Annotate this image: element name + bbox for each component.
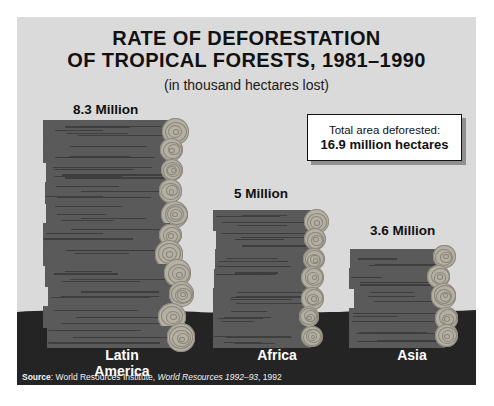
log <box>43 120 174 142</box>
chart-subtitle: (in thousand hectares lost) <box>17 77 476 93</box>
log <box>45 264 176 286</box>
category-label-africa: Africa <box>222 347 332 363</box>
source-year: , 1992 <box>258 372 282 382</box>
value-label-asia: 3.6 Million <box>370 223 435 238</box>
log <box>48 285 181 307</box>
log-end-disc <box>299 306 320 327</box>
log-stack-latin-america <box>43 120 187 347</box>
log <box>43 223 170 245</box>
source-prefix: Source <box>22 372 51 382</box>
chart-panel: RATE OF DEFORESTATION OF TROPICAL FOREST… <box>17 17 476 385</box>
log <box>45 182 169 204</box>
log-end-disc <box>435 324 458 347</box>
log-stack-africa <box>213 210 328 347</box>
log <box>43 244 167 266</box>
source-line: Source: World Resources Institute, World… <box>22 372 282 382</box>
log <box>213 210 315 231</box>
chart-title-line-2: OF TROPICAL FORESTS, 1981–1990 <box>17 50 476 71</box>
log-end-disc <box>304 228 326 250</box>
log-end-disc <box>301 266 324 289</box>
infographic-chart: RATE OF DEFORESTATION OF TROPICAL FOREST… <box>0 0 494 406</box>
log-end-disc <box>159 179 182 202</box>
log <box>214 269 311 290</box>
log <box>349 327 445 348</box>
log <box>46 203 173 225</box>
log <box>216 230 315 251</box>
value-label-africa: 5 Million <box>234 186 288 201</box>
log <box>43 306 171 328</box>
category-label-asia: Asia <box>357 347 467 363</box>
log <box>47 326 180 348</box>
log <box>43 141 171 163</box>
log <box>349 268 437 289</box>
log <box>46 161 171 183</box>
log-end-disc <box>301 326 323 348</box>
log <box>215 249 312 270</box>
source-publisher: World Resources Institute, <box>56 372 158 382</box>
callout-value: 16.9 million hectares <box>321 137 449 153</box>
total-deforested-callout: Total area deforested: 16.9 million hect… <box>307 114 462 161</box>
source-work-title: World Resources 1992–93 <box>157 372 258 382</box>
log-end-disc <box>431 283 457 309</box>
category-label-line-1: Latin <box>57 347 187 363</box>
log <box>213 327 311 348</box>
log <box>354 288 442 309</box>
chart-title-line-1: RATE OF DEFORESTATION <box>17 28 476 49</box>
value-label-latin-america: 8.3 Million <box>73 102 138 117</box>
callout-label: Total area deforested: <box>329 123 440 137</box>
log <box>349 308 445 329</box>
log-end-disc <box>161 159 183 181</box>
log <box>350 249 443 270</box>
log <box>213 308 308 329</box>
log-end-disc <box>160 138 183 161</box>
log <box>213 288 311 309</box>
log-stack-asia <box>349 249 455 347</box>
